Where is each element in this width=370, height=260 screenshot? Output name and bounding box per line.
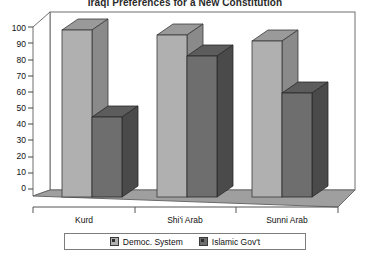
bar-kurd-islamic-govt — [92, 106, 138, 197]
legend-label: Islamic Gov't — [212, 237, 260, 247]
bar-sunni-arab-islamic-govt — [282, 82, 328, 197]
chart-legend: Democ. System Islamic Gov't — [64, 233, 306, 250]
x-category-label: Kurd — [44, 216, 124, 225]
legend-item-democ-system: Democ. System — [110, 237, 183, 247]
bar-shii-arab-islamic-govt — [187, 45, 233, 197]
chart-container: Iraqi Preferences for a New Constitution… — [0, 0, 370, 260]
legend-swatch-icon — [199, 237, 208, 246]
x-category-label: Shi'i Arab — [145, 216, 225, 225]
legend-item-islamic-govt: Islamic Gov't — [199, 237, 260, 247]
legend-swatch-icon — [110, 237, 119, 246]
legend-label: Democ. System — [123, 237, 183, 247]
x-category-label: Sunni Arab — [247, 216, 327, 225]
